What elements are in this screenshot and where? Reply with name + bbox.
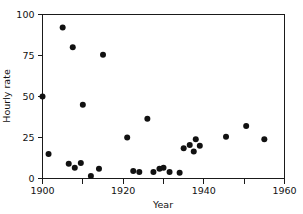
data-point	[144, 116, 150, 122]
data-point	[100, 52, 106, 58]
data-point	[161, 165, 167, 171]
plot-frame	[43, 15, 285, 179]
data-point	[46, 151, 52, 157]
x-tick-label-0: 1900	[30, 185, 54, 196]
data-point	[191, 148, 197, 154]
data-point	[70, 44, 76, 50]
data-point	[223, 134, 229, 140]
y-tick-label-0: 0	[28, 173, 34, 184]
y-tick-label-1: 25	[22, 132, 34, 143]
data-point	[130, 168, 136, 174]
y-tick-label-2: 50	[22, 91, 34, 102]
data-point	[78, 160, 84, 166]
data-point	[80, 102, 86, 108]
x-tick-label-1: 1920	[111, 185, 135, 196]
data-point	[261, 136, 267, 142]
data-point	[193, 136, 199, 142]
x-axis-tick-labels: 1900192019401960	[30, 185, 296, 196]
data-point	[150, 169, 156, 175]
data-point	[60, 25, 66, 31]
y-tick-label-4: 100	[16, 9, 34, 20]
data-point	[181, 145, 187, 151]
scatter-chart: 1900192019401960 0255075100 Year Hourly …	[0, 0, 303, 214]
data-point	[66, 161, 72, 167]
x-tick-label-3: 1960	[272, 185, 296, 196]
data-point	[88, 173, 94, 179]
data-point	[187, 142, 193, 148]
x-tick-label-2: 1940	[192, 185, 216, 196]
x-axis-title: Year	[152, 199, 173, 210]
data-points	[40, 25, 268, 179]
axis-frame	[43, 15, 285, 179]
y-tick-label-3: 75	[22, 50, 34, 61]
data-point	[136, 169, 142, 175]
data-point	[40, 94, 46, 100]
x-axis-ticks	[43, 179, 285, 184]
y-axis-title: Hourly rate	[1, 69, 12, 123]
data-point	[177, 170, 183, 176]
data-point	[243, 123, 249, 129]
data-point	[197, 143, 203, 149]
data-point	[96, 166, 102, 172]
data-point	[167, 169, 173, 175]
data-point	[124, 135, 130, 141]
plot-area: 1900192019401960 0255075100 Year Hourly …	[0, 0, 303, 214]
data-point	[72, 165, 78, 171]
y-axis-tick-labels: 0255075100	[16, 9, 34, 184]
